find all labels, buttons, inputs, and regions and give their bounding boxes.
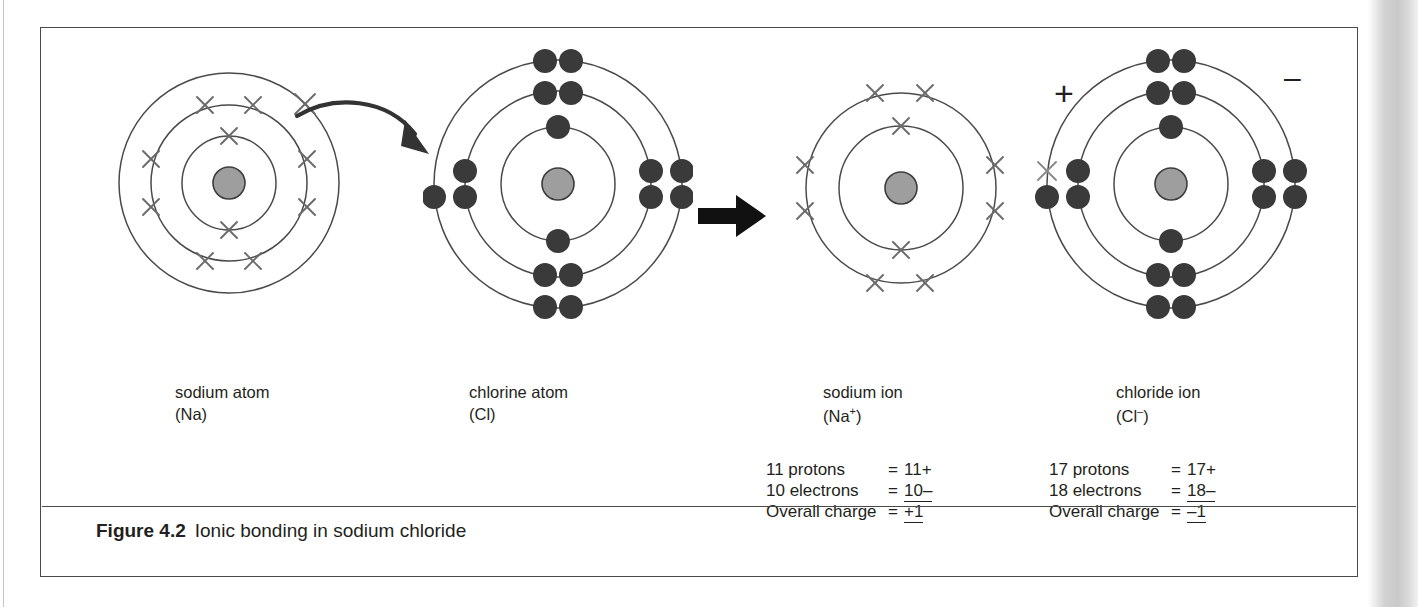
electron-dot <box>559 81 583 105</box>
reaction-arrow <box>696 191 768 241</box>
sodium-atom-label-line1: sodium atom <box>175 382 269 404</box>
electron-dot <box>423 185 446 209</box>
sodium-ion-label-line2: (Na+) <box>823 404 903 427</box>
electron-dot <box>1146 81 1170 105</box>
electron-dot <box>1172 81 1196 105</box>
electron-dot <box>1172 49 1196 73</box>
sodium-ion-charge-calc: 11 protons = 11+ 10 electrons = 10– Over… <box>766 460 932 523</box>
calc-row: 18 electrons = 18– <box>1049 481 1216 502</box>
chlorine-atom-diagram <box>423 36 693 336</box>
calc-label: 17 protons <box>1049 460 1171 480</box>
electron-dot <box>1146 49 1170 73</box>
electron-dot <box>1172 263 1196 287</box>
electron-dot <box>670 185 693 209</box>
figure-number-label: Figure 4.2 <box>96 520 186 541</box>
electron-dot <box>1066 159 1090 183</box>
sodium-atom-label-line2: (Na) <box>175 404 269 426</box>
electron-dot <box>639 185 663 209</box>
electron-dot <box>1159 115 1183 139</box>
electron-dot <box>1066 185 1090 209</box>
electron-dot <box>1159 229 1183 253</box>
electron-dot <box>533 49 557 73</box>
calc-label: 18 electrons <box>1049 481 1171 501</box>
electron-dot <box>1172 295 1196 319</box>
calc-label: 11 protons <box>766 460 888 480</box>
electron-dot <box>559 263 583 287</box>
electron-dot <box>533 295 557 319</box>
chlorine-atom-label: chlorine atom (Cl) <box>469 382 568 426</box>
calc-value: 10– <box>904 481 932 502</box>
electron-dot <box>1035 185 1059 209</box>
chloride-ion-formula-pre: (Cl <box>1116 406 1137 424</box>
figure-caption-text: Ionic bonding in sodium chloride <box>195 520 466 541</box>
electron-cross <box>143 151 159 167</box>
electron-cross <box>797 203 813 219</box>
calc-equals: = <box>1171 502 1187 522</box>
electron-dot <box>546 229 570 253</box>
electron-cross <box>867 85 883 101</box>
calc-value: 11+ <box>904 460 932 480</box>
figure-caption: Figure 4.2Ionic bonding in sodium chlori… <box>96 520 466 542</box>
chlorine-atom-label-line1: chlorine atom <box>469 382 568 404</box>
sodium-ion-diagram <box>791 73 1011 303</box>
chloride-ion-formula-post: ) <box>1143 406 1149 424</box>
calc-value: 18– <box>1187 481 1215 502</box>
electron-cross <box>917 275 933 291</box>
electron-cross <box>197 253 213 269</box>
sodium-ion-formula-post: ) <box>856 406 862 424</box>
chlorine-atom-label-line2: (Cl) <box>469 404 568 426</box>
calc-equals: = <box>888 502 904 522</box>
chlorine-nucleus <box>542 168 574 200</box>
electron-cross <box>245 97 261 113</box>
electron-cross <box>197 97 213 113</box>
calc-row: 11 protons = 11+ <box>766 460 932 481</box>
chloride-ion-diagram <box>1031 36 1311 336</box>
electron-dot <box>453 159 477 183</box>
calc-equals: = <box>1171 460 1187 480</box>
electron-dot <box>1252 159 1276 183</box>
electron-cross <box>143 199 159 215</box>
electron-cross <box>917 85 933 101</box>
calc-value: 17+ <box>1187 460 1216 480</box>
calc-row: 10 electrons = 10– <box>766 481 932 502</box>
electron-cross <box>299 199 315 215</box>
electron-dot <box>453 185 477 209</box>
page-canvas: + <box>0 0 1418 607</box>
sodium-ion-label: sodium ion (Na+) <box>823 382 903 427</box>
electron-dot <box>1283 159 1307 183</box>
electron-dot <box>1252 185 1276 209</box>
electron-dot <box>533 81 557 105</box>
calc-equals: = <box>888 460 904 480</box>
calc-equals: = <box>1171 481 1187 501</box>
chloride-ion-label-line1: chloride ion <box>1116 382 1200 404</box>
sodium-ion-label-line1: sodium ion <box>823 382 903 404</box>
page-edge-shadow <box>1348 0 1418 607</box>
sodium-ion-formula-pre: (Na <box>823 406 850 424</box>
figure-caption-divider <box>42 506 1356 507</box>
electron-dot <box>1146 263 1170 287</box>
electron-cross <box>867 275 883 291</box>
calc-label: Overall charge <box>1049 502 1171 522</box>
electron-dot <box>559 49 583 73</box>
calc-row: 17 protons = 17+ <box>1049 460 1216 481</box>
electron-dot <box>1146 295 1170 319</box>
chloride-ion-label: chloride ion (Cl–) <box>1116 382 1200 427</box>
electron-cross <box>797 157 813 173</box>
electron-dot <box>670 159 693 183</box>
electron-dot <box>546 115 570 139</box>
sodium-atom-label: sodium atom (Na) <box>175 382 269 426</box>
electron-cross <box>245 253 261 269</box>
chloride-nucleus <box>1155 168 1187 200</box>
sodium-nucleus <box>213 167 245 199</box>
page-left-rule <box>3 0 4 607</box>
chloride-ion-charge-calc: 17 protons = 17+ 18 electrons = 18– Over… <box>1049 460 1216 523</box>
electron-dot <box>1283 185 1307 209</box>
figure-box: + <box>40 27 1358 577</box>
electron-dot <box>533 263 557 287</box>
sodium-ion-nucleus <box>885 172 917 204</box>
calc-equals: = <box>888 481 904 501</box>
electron-dot <box>559 295 583 319</box>
calc-label: Overall charge <box>766 502 888 522</box>
calc-label: 10 electrons <box>766 481 888 501</box>
chloride-ion-label-line2: (Cl–) <box>1116 404 1200 427</box>
